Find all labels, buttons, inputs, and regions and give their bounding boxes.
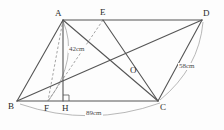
arc-DC bbox=[160, 22, 203, 100]
right-angle-marker-H bbox=[63, 95, 69, 101]
vertex-label-D: D bbox=[203, 9, 210, 18]
diagonal-BD bbox=[17, 20, 202, 101]
measure-42cm: 42cm bbox=[68, 46, 86, 53]
vertex-label-B: B bbox=[8, 102, 14, 111]
solid-edges bbox=[17, 20, 202, 101]
measure-89cm: 89cm bbox=[85, 110, 103, 117]
vertex-label-E: E bbox=[100, 8, 106, 17]
vertex-label-C: C bbox=[160, 103, 166, 112]
geometry-figure: AEDOBFHC 42cm58cm89cm bbox=[0, 0, 224, 130]
vertex-label-A: A bbox=[55, 9, 62, 18]
measure-58cm: 58cm bbox=[178, 63, 196, 70]
right-angle-markers bbox=[63, 95, 69, 101]
vertex-label-F: F bbox=[44, 104, 49, 113]
edge-DC bbox=[158, 20, 202, 101]
arc-AF bbox=[49, 21, 69, 100]
vertex-label-H: H bbox=[62, 104, 69, 113]
vertex-label-O: O bbox=[130, 66, 137, 75]
